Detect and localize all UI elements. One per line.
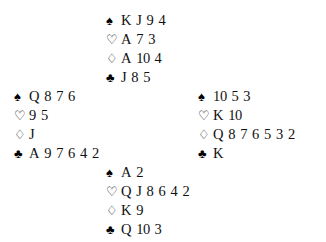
- suit-row-north-hearts: ♡A73: [106, 30, 166, 49]
- card-rank: 2: [182, 182, 189, 201]
- card-rank: 6: [158, 182, 165, 201]
- card-rank: 9: [44, 144, 51, 163]
- card-rank: 7: [56, 87, 63, 106]
- card-rank: 7: [136, 30, 143, 49]
- card-rank: A: [121, 30, 132, 49]
- hand-west: ♠Q876♡95♢J♣A97642: [14, 87, 99, 163]
- card-rank: 10: [136, 49, 150, 68]
- diamonds-suit-icon: ♢: [198, 125, 213, 144]
- clubs-suit-icon: ♣: [106, 68, 121, 87]
- card-rank: 8: [147, 182, 154, 201]
- card-rank: K: [121, 201, 132, 220]
- card-rank: 6: [68, 144, 75, 163]
- card-rank: 7: [240, 125, 247, 144]
- card-rank: 10: [213, 87, 227, 106]
- card-rank: A: [121, 163, 132, 182]
- diamonds-suit-icon: ♢: [106, 49, 121, 68]
- card-rank: K: [121, 11, 132, 30]
- spades-suit-icon: ♠: [198, 87, 213, 106]
- spades-suit-icon: ♠: [106, 11, 121, 30]
- card-rank: 3: [148, 30, 155, 49]
- card-rank: 5: [143, 68, 150, 87]
- card-rank: J: [136, 11, 142, 30]
- card-ranks-north-diamonds: A104: [121, 49, 162, 68]
- suit-row-north-clubs: ♣J85: [106, 68, 166, 87]
- card-rank: 9: [136, 201, 143, 220]
- card-rank: K: [213, 106, 224, 125]
- suit-row-east-clubs: ♣K: [198, 144, 295, 163]
- card-rank: J: [29, 125, 35, 144]
- clubs-suit-icon: ♣: [198, 144, 213, 163]
- diamonds-suit-icon: ♢: [106, 201, 121, 220]
- suit-row-south-clubs: ♣Q103: [106, 220, 190, 239]
- card-rank: 2: [288, 125, 295, 144]
- card-rank: 8: [44, 87, 51, 106]
- card-rank: 3: [243, 87, 250, 106]
- card-rank: 3: [155, 220, 162, 239]
- card-rank: 4: [158, 11, 165, 30]
- suit-row-east-hearts: ♡K10: [198, 106, 295, 125]
- card-ranks-north-spades: KJ94: [121, 11, 166, 30]
- suit-row-south-diamonds: ♢K9: [106, 201, 190, 220]
- card-rank: 2: [92, 144, 99, 163]
- spades-suit-icon: ♠: [14, 87, 29, 106]
- card-rank: J: [121, 68, 127, 87]
- clubs-suit-icon: ♣: [106, 220, 121, 239]
- card-rank: 4: [80, 144, 87, 163]
- card-ranks-north-clubs: J85: [121, 68, 151, 87]
- bridge-deal-diagram: ♠KJ94♡A73♢A104♣J85 ♠Q876♡95♢J♣A97642 ♠10…: [0, 0, 326, 242]
- suit-row-west-diamonds: ♢J: [14, 125, 99, 144]
- card-rank: 4: [170, 182, 177, 201]
- card-rank: Q: [121, 182, 132, 201]
- card-ranks-west-hearts: 95: [29, 106, 48, 125]
- card-rank: 5: [264, 125, 271, 144]
- spades-suit-icon: ♠: [106, 163, 121, 182]
- card-rank: 8: [228, 125, 235, 144]
- card-ranks-west-spades: Q876: [29, 87, 76, 106]
- card-rank: 5: [41, 106, 48, 125]
- suit-row-south-spades: ♠A2: [106, 163, 190, 182]
- suit-row-west-clubs: ♣A97642: [14, 144, 99, 163]
- card-rank: 10: [136, 220, 150, 239]
- hand-south: ♠A2♡QJ8642♢K9♣Q103: [106, 163, 190, 239]
- card-rank: 3: [276, 125, 283, 144]
- hand-east: ♠1053♡K10♢Q876532♣K: [198, 87, 295, 163]
- hearts-suit-icon: ♡: [106, 182, 121, 201]
- card-rank: J: [136, 182, 142, 201]
- card-rank: 9: [147, 11, 154, 30]
- card-rank: 6: [252, 125, 259, 144]
- card-ranks-south-diamonds: K9: [121, 201, 144, 220]
- suit-row-west-spades: ♠Q876: [14, 87, 99, 106]
- hearts-suit-icon: ♡: [14, 106, 29, 125]
- card-ranks-west-diamonds: J: [29, 125, 35, 144]
- card-rank: 7: [56, 144, 63, 163]
- card-rank: Q: [29, 87, 40, 106]
- card-rank: K: [213, 144, 224, 163]
- card-rank: Q: [213, 125, 224, 144]
- card-ranks-south-clubs: Q103: [121, 220, 162, 239]
- card-rank: 8: [131, 68, 138, 87]
- card-rank: 2: [136, 163, 143, 182]
- card-ranks-east-diamonds: Q876532: [213, 125, 295, 144]
- card-rank: 6: [68, 87, 75, 106]
- card-rank: A: [29, 144, 40, 163]
- card-rank: 9: [29, 106, 36, 125]
- diamonds-suit-icon: ♢: [14, 125, 29, 144]
- suit-row-north-spades: ♠KJ94: [106, 11, 166, 30]
- card-ranks-south-hearts: QJ8642: [121, 182, 190, 201]
- card-ranks-east-spades: 1053: [213, 87, 251, 106]
- suit-row-west-hearts: ♡95: [14, 106, 99, 125]
- hand-north: ♠KJ94♡A73♢A104♣J85: [106, 11, 166, 87]
- card-rank: 4: [155, 49, 162, 68]
- card-ranks-north-hearts: A73: [121, 30, 156, 49]
- card-ranks-south-spades: A2: [121, 163, 144, 182]
- suit-row-north-diamonds: ♢A104: [106, 49, 166, 68]
- clubs-suit-icon: ♣: [14, 144, 29, 163]
- card-rank: 10: [228, 106, 242, 125]
- card-rank: A: [121, 49, 132, 68]
- suit-row-south-hearts: ♡QJ8642: [106, 182, 190, 201]
- card-ranks-east-clubs: K: [213, 144, 224, 163]
- card-ranks-east-hearts: K10: [213, 106, 242, 125]
- suit-row-east-diamonds: ♢Q876532: [198, 125, 295, 144]
- hearts-suit-icon: ♡: [106, 30, 121, 49]
